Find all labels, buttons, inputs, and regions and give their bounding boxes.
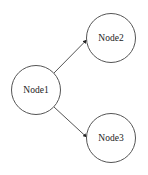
graph-diagram: Node1 Node2 Node3 xyxy=(0,0,148,175)
node1-label: Node1 xyxy=(23,85,49,95)
node3-label: Node3 xyxy=(98,133,124,143)
node-node1[interactable]: Node1 xyxy=(12,66,61,115)
nodes: Node1 Node2 Node3 xyxy=(12,14,136,163)
node2-label: Node2 xyxy=(98,33,124,43)
node-node3[interactable]: Node3 xyxy=(87,114,136,163)
edge-node1-to-node2[interactable] xyxy=(54,40,87,73)
node-node2[interactable]: Node2 xyxy=(87,14,136,63)
edge-node1-to-node3[interactable] xyxy=(54,107,87,137)
